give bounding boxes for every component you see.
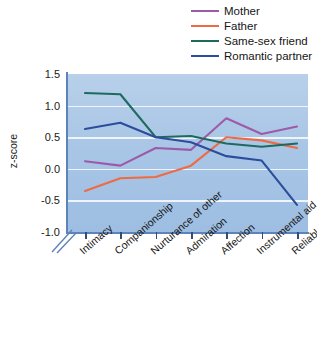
chart-figure: MotherFatherSame-sex friendRomantic part…: [0, 0, 317, 343]
plot-region: 1.51.00.50.0-0.5-1.0 z-score IntimacyCom…: [0, 0, 317, 343]
data-lines: [0, 0, 317, 343]
series-line-same-sex-friend: [85, 93, 297, 147]
